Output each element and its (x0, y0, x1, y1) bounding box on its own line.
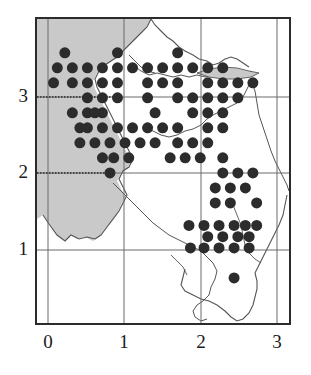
record-dot (97, 152, 108, 163)
record-dot (67, 62, 78, 73)
record-dot (217, 62, 228, 73)
record-dot (195, 152, 206, 163)
record-dot (97, 77, 108, 88)
record-dot (247, 77, 258, 88)
record-dot (59, 47, 70, 58)
south-coast-outline (181, 269, 257, 321)
record-dot (82, 77, 93, 88)
map-svg (37, 19, 289, 323)
record-dot (244, 242, 255, 253)
record-dot (142, 62, 153, 73)
record-dot (97, 92, 108, 103)
record-dot (185, 242, 196, 253)
record-dot (108, 152, 119, 163)
record-dot (150, 137, 161, 148)
record-dot (74, 137, 85, 148)
record-dot (244, 231, 255, 242)
x-tick-label-0: 0 (38, 332, 58, 351)
record-dot (157, 62, 168, 73)
record-dot (112, 122, 123, 133)
record-dot (210, 182, 221, 193)
record-dot (52, 62, 63, 73)
record-dot (202, 62, 213, 73)
record-dot (225, 182, 236, 193)
record-dot (217, 77, 228, 88)
record-dot (120, 137, 131, 148)
record-dot (112, 47, 123, 58)
record-dot (127, 122, 138, 133)
x-tick-label-3: 3 (267, 332, 287, 351)
record-dot (172, 92, 183, 103)
record-dot (97, 122, 108, 133)
record-dot (112, 77, 123, 88)
distribution-map-figure: 0 1 2 3 3 2 1 (0, 0, 311, 375)
record-dot (89, 137, 100, 148)
record-dot (187, 137, 198, 148)
record-dot (135, 137, 146, 148)
record-dot (229, 220, 240, 231)
record-dot (202, 92, 213, 103)
record-dot (82, 122, 93, 133)
record-dot (202, 77, 213, 88)
record-dot (214, 242, 225, 253)
record-dot (214, 220, 225, 231)
record-dot (142, 122, 153, 133)
record-dot (240, 220, 251, 231)
record-dot (67, 77, 78, 88)
record-dot (172, 77, 183, 88)
record-dot (202, 137, 213, 148)
record-dot (229, 272, 240, 283)
record-dot (142, 92, 153, 103)
record-dot (104, 167, 115, 178)
record-dot (217, 107, 228, 118)
record-dot (217, 231, 228, 242)
y-tick-label-3: 3 (10, 86, 28, 105)
record-dot (232, 77, 243, 88)
record-dot (217, 152, 228, 163)
record-dot (127, 62, 138, 73)
plot-frame (35, 17, 291, 325)
record-dot (172, 47, 183, 58)
record-dot (210, 197, 221, 208)
record-dot (67, 107, 78, 118)
record-dot (172, 62, 183, 73)
record-dot (97, 62, 108, 73)
record-dot (225, 197, 236, 208)
record-dot (187, 62, 198, 73)
record-dot (199, 242, 210, 253)
record-dot (247, 167, 258, 178)
record-dot (123, 152, 134, 163)
record-dot (202, 107, 213, 118)
y-tick-label-2: 2 (10, 162, 28, 181)
record-dot (229, 242, 240, 253)
x-tick-label-1: 1 (114, 332, 134, 351)
record-dot (89, 107, 100, 118)
y-tick-label-1: 1 (10, 239, 28, 258)
record-dot (104, 137, 115, 148)
record-dot (112, 92, 123, 103)
record-dot (157, 77, 168, 88)
record-dot (187, 107, 198, 118)
x-tick-label-2: 2 (191, 332, 211, 351)
record-dot (217, 167, 228, 178)
record-dot (187, 92, 198, 103)
record-dot (199, 220, 210, 231)
record-dot (172, 137, 183, 148)
record-dot (232, 92, 243, 103)
record-dot (232, 167, 243, 178)
record-dot (48, 77, 59, 88)
north-coast-detail (151, 19, 249, 67)
record-dot (202, 122, 213, 133)
record-dot (240, 182, 251, 193)
record-dot (251, 197, 262, 208)
record-dot (232, 231, 243, 242)
record-dot (150, 107, 161, 118)
record-dot (180, 152, 191, 163)
record-dot (82, 62, 93, 73)
record-dot (112, 62, 123, 73)
record-dot (217, 92, 228, 103)
record-dot (202, 231, 213, 242)
record-dot (157, 122, 168, 133)
record-dot (217, 122, 228, 133)
record-dot (142, 77, 153, 88)
